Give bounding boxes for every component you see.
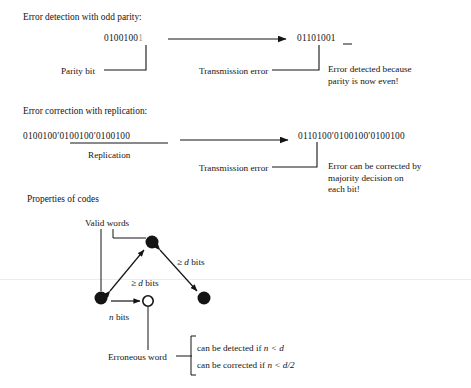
brace-corrected-cond: n < d/2 [267,360,294,370]
parity-note-line2: parity is now even! [328,76,399,86]
brace-detected-cond: n < d [264,343,284,353]
valid-words-leader-top [113,229,146,238]
node-erroneous-word [143,296,153,306]
section-parity-heading: Error detection with odd parity: [23,12,142,22]
n-bits-unit: bits [114,312,130,322]
replication-note-line1: Error can be corrected by [328,161,421,171]
node-valid-word-top [146,236,159,249]
parity-note-line1: Error detected because [328,64,412,74]
d-bits-left-label: ≥ d bits [131,278,159,290]
valid-words-label: Valid words [85,218,129,230]
figure-canvas: Error detection with odd parity: 0100100… [0,0,471,388]
parity-note: Error detected becauseparity is now even… [328,64,412,87]
node-valid-word-right [198,292,211,305]
scan-band-artifact [0,279,471,280]
parity-error-leader [272,45,319,70]
brace-line-corrected: can be corrected if n < d/2 [197,360,295,372]
parity-source-bits: 0100100 [104,33,138,43]
brace-detected-text: can be detected if [197,343,264,353]
conditions-bracket [191,336,196,375]
replication-received-word: 0110100′0100100′0100100 [298,131,405,141]
replication-transmission-error-label: Transmission error [199,163,268,175]
d-bits-right-label: ≥ d bits [177,257,205,269]
erroneous-word-label: Erroneous word [108,352,167,364]
node-valid-word-left [95,292,108,305]
replication-note: Error can be corrected bymajority decisi… [328,161,421,196]
n-bits-label: n bits [109,312,129,324]
brace-corrected-text: can be corrected if [197,360,267,370]
replication-label: Replication [88,150,130,162]
parity-received-word: 01101001 [297,33,336,43]
replication-note-line3: each bit! [328,184,360,194]
parity-bit-leader [104,45,146,70]
parity-source-word: 01001001 [104,33,143,43]
replication-source-word: 0100100′0100100′0100100 [23,131,130,141]
parity-source-parity-bit: 1 [138,33,143,43]
brace-line-detected: can be detected if n < d [197,343,284,355]
replication-note-line2: majority decision on [328,173,404,183]
section-replication-heading: Error correction with replication: [23,106,147,116]
d-bits-left-unit: bits [143,278,159,288]
replication-error-leader [272,142,317,167]
section-properties-heading: Properties of codes [27,194,99,204]
parity-bit-label: Parity bit [61,66,95,78]
d-bits-right-unit: bits [189,257,205,267]
parity-transmission-error-label: Transmission error [199,66,268,78]
